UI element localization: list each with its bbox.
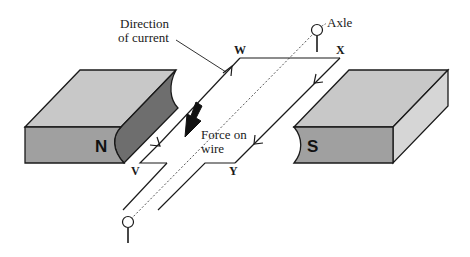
north-pole-label: N bbox=[95, 137, 107, 156]
force-label-line1: Force on bbox=[201, 127, 247, 142]
corner-v-label: V bbox=[131, 164, 140, 178]
north-magnet-front bbox=[25, 127, 124, 163]
south-pole-label: S bbox=[307, 137, 318, 156]
axle-top-bearing bbox=[312, 25, 323, 53]
axle-bottom-bearing bbox=[123, 217, 134, 244]
motor-effect-diagram: Direction of current Axle Force on wire … bbox=[0, 0, 470, 257]
corner-w-label: W bbox=[234, 43, 246, 57]
direction-leader-line bbox=[176, 40, 226, 72]
force-label-line2: wire bbox=[201, 141, 224, 156]
corner-x-label: X bbox=[336, 43, 345, 57]
direction-label-line1: Direction bbox=[120, 16, 170, 31]
direction-label-line2: of current bbox=[118, 30, 169, 45]
axle-label: Axle bbox=[327, 15, 353, 30]
current-arrow-xy bbox=[314, 74, 323, 83]
corner-y-label: Y bbox=[229, 164, 238, 178]
